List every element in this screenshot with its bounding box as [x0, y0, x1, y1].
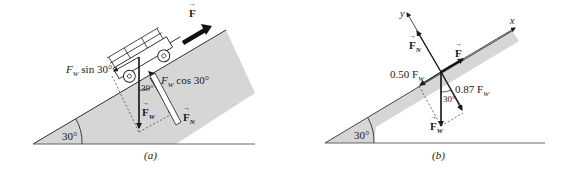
angle-label-b-inner: 30°	[443, 95, 456, 104]
incline-angle-label-b: 30°	[354, 130, 369, 141]
y-axis-label: y	[400, 9, 404, 19]
caption-a: (a)	[144, 150, 157, 161]
angle-label-a-inner: 30°	[141, 84, 154, 93]
incline-angle-label-a: 30°	[62, 131, 77, 142]
normal-force-label-a: FN	[183, 112, 195, 123]
caption-b: (b)	[432, 150, 445, 161]
perpendicular-component-label: 0.87 FW	[455, 84, 489, 95]
inclined-plane-force-diagram: F FW sin 30° FW cos 30° 30° FW FN 30° (a…	[0, 0, 571, 171]
weight-sin-component-label: FW sin 30°	[66, 64, 112, 75]
normal-force-label-b: FN	[409, 40, 421, 51]
parallel-component-label: 0.50 FW	[390, 69, 424, 80]
weight-cos-component-label: FW cos 30°	[161, 75, 209, 86]
incline-band-b	[325, 31, 519, 143]
weight-label-a: FW	[142, 107, 155, 118]
force-arrow-a	[183, 30, 205, 43]
applied-force-label-b: F	[455, 48, 462, 59]
applied-force-label-a: F	[189, 8, 196, 19]
weight-label-b: FW	[430, 121, 443, 132]
x-axis-label: x	[510, 16, 514, 26]
